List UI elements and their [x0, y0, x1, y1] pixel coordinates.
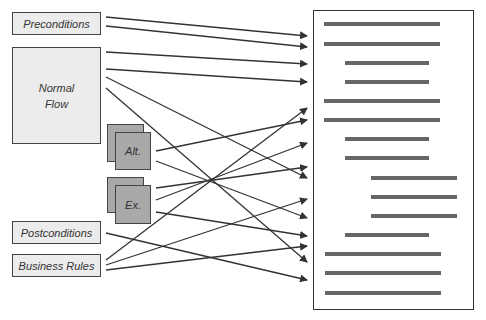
arrow [106, 108, 307, 260]
arrow [106, 69, 307, 82]
arrow [106, 26, 307, 47]
arrow [106, 77, 307, 178]
arrow [106, 88, 307, 262]
arrow [106, 233, 307, 280]
arrow [106, 17, 307, 36]
arrow [106, 199, 307, 265]
arrow [106, 246, 307, 270]
trace-arrows [0, 0, 486, 320]
arrow [106, 52, 307, 64]
